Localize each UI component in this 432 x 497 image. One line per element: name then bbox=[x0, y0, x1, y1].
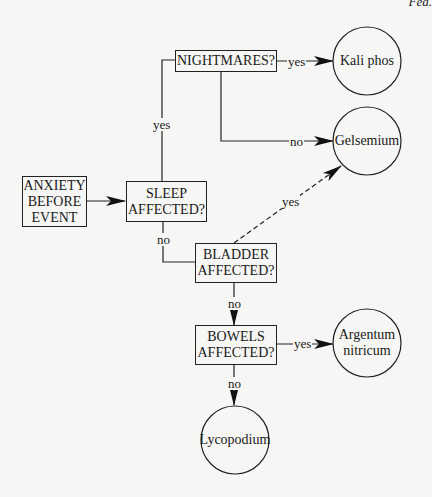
edge-label-sleep-no: no bbox=[156, 233, 171, 246]
node-sleep-affected: SLEEP AFFECTED? bbox=[126, 181, 207, 222]
node-label-line: ANXIETY bbox=[23, 178, 85, 194]
node-label-line: BLADDER bbox=[203, 247, 269, 263]
node-label-line: Gelsemium bbox=[335, 133, 400, 149]
node-label-line: BEFORE bbox=[28, 194, 82, 210]
node-label-line: SLEEP bbox=[146, 186, 187, 202]
flowchart-canvas: Fea. ANXIETY BEFORE bbox=[0, 0, 432, 497]
edge-label-bladder-no: no bbox=[227, 297, 242, 310]
edge-label-nightmares-yes: yes bbox=[287, 55, 306, 68]
node-anxiety-before-event: ANXIETY BEFORE EVENT bbox=[22, 176, 87, 227]
node-bowels-affected: BOWELS AFFECTED? bbox=[195, 325, 277, 365]
node-label-line: BOWELS bbox=[207, 329, 265, 345]
node-label-line: Lycopodium bbox=[200, 432, 271, 448]
node-kali-phos: Kali phos bbox=[333, 27, 401, 95]
node-label-line: NIGHTMARES? bbox=[177, 53, 275, 69]
node-label-line: Argentum bbox=[339, 327, 396, 343]
node-nightmares: NIGHTMARES? bbox=[175, 50, 277, 72]
edge-label-bowels-yes: yes bbox=[293, 337, 312, 350]
edge-label-nightmares-no: no bbox=[289, 135, 304, 148]
edge-label-sleep-yes: yes bbox=[152, 118, 171, 131]
edge-nightmares-no-to-gelsemium bbox=[221, 71, 333, 141]
node-label-line: AFFECTED? bbox=[198, 263, 275, 279]
node-label-line: nitricum bbox=[343, 343, 390, 359]
node-lycopodium: Lycopodium bbox=[201, 406, 269, 474]
node-label-line: AFFECTED? bbox=[128, 202, 205, 218]
node-gelsemium: Gelsemium bbox=[333, 107, 401, 175]
node-label-line: Kali phos bbox=[340, 53, 394, 69]
edge-label-bowels-no: no bbox=[227, 377, 242, 390]
node-label-line: EVENT bbox=[32, 210, 78, 226]
node-bladder-affected: BLADDER AFFECTED? bbox=[195, 243, 277, 283]
node-argentum-nitricum: Argentum nitricum bbox=[333, 309, 401, 377]
edge-label-bladder-yes: yes bbox=[281, 195, 300, 208]
node-label-line: AFFECTED? bbox=[198, 345, 275, 361]
